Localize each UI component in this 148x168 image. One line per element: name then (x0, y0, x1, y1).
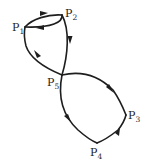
arrow-p5-p4 (64, 114, 71, 122)
edge-p1-p2 (25, 15, 62, 27)
edge-p2-p5 (62, 15, 67, 75)
node-label-p1: P1 (12, 21, 24, 36)
graph-diagram: P1 P2 P3 P4 P5 (0, 0, 148, 168)
node-label-p4: P4 (90, 146, 102, 161)
arrow-p2-p5 (68, 36, 73, 44)
edge-p5-p4 (61, 75, 97, 143)
arrow-p5-p1 (34, 50, 41, 58)
node-label-p2: P2 (65, 7, 77, 22)
edge-p5-p3 (62, 74, 126, 115)
edge-p4-p3 (97, 115, 126, 143)
edge-p5-p1 (24, 27, 62, 75)
node-label-p3: P3 (128, 109, 140, 124)
node-label-p5: P5 (47, 76, 59, 91)
